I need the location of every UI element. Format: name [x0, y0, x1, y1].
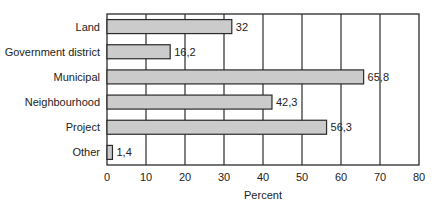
value-label: 16,2	[174, 46, 195, 58]
value-labels: 3216,265,842,356,31,4	[116, 21, 389, 159]
value-label: 56,3	[331, 121, 352, 133]
bar	[107, 70, 364, 84]
category-label: Project	[66, 121, 100, 133]
value-label: 42,3	[276, 96, 297, 108]
x-tick-label: 10	[140, 171, 152, 183]
value-label: 65,8	[368, 71, 389, 83]
bar	[107, 145, 112, 159]
x-tick-label: 70	[374, 171, 386, 183]
category-label: Municipal	[54, 71, 100, 83]
x-tick-labels: 01020304050607080	[104, 171, 425, 183]
category-label: Other	[72, 146, 100, 158]
x-tick-label: 0	[104, 171, 110, 183]
x-tick-label: 20	[179, 171, 191, 183]
x-axis-label: Percent	[244, 189, 282, 201]
grid-lines	[107, 14, 419, 165]
value-label: 1,4	[116, 146, 131, 158]
category-label: Government district	[5, 46, 100, 58]
bar	[107, 45, 170, 59]
x-tick-label: 60	[335, 171, 347, 183]
bar	[107, 95, 272, 109]
bar	[107, 20, 232, 34]
category-labels: LandGovernment districtMunicipalNeighbou…	[5, 21, 101, 159]
value-label: 32	[236, 21, 248, 33]
category-label: Neighbourhood	[25, 96, 100, 108]
x-tick-label: 50	[296, 171, 308, 183]
bar	[107, 120, 327, 134]
x-tick-label: 40	[257, 171, 269, 183]
bar-chart: LandGovernment districtMunicipalNeighbou…	[0, 0, 437, 212]
x-tick-label: 30	[218, 171, 230, 183]
x-tick-label: 80	[413, 171, 425, 183]
category-label: Land	[76, 21, 100, 33]
